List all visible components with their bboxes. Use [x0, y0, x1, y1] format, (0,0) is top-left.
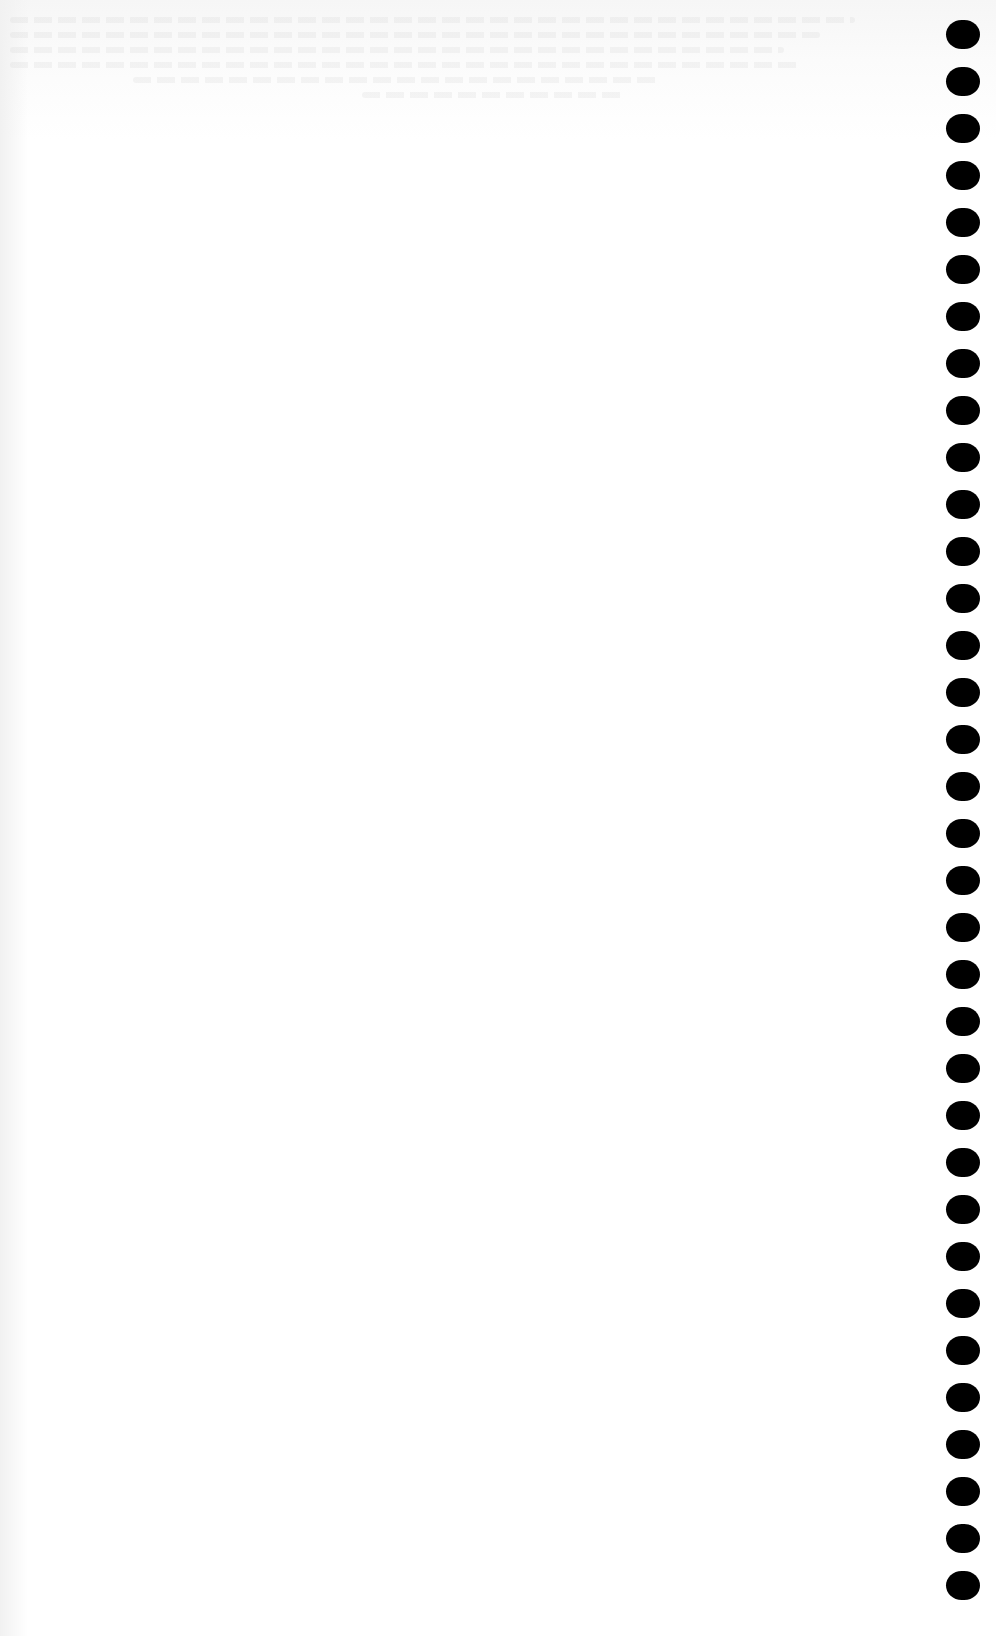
- binding-hole: [946, 1571, 980, 1600]
- binding-hole: [946, 208, 980, 237]
- binding-hole: [946, 584, 980, 613]
- binding-hole: [946, 631, 980, 660]
- binding-hole: [946, 913, 980, 942]
- binding-hole: [946, 960, 980, 989]
- binding-hole: [946, 678, 980, 707]
- binding-hole: [946, 725, 980, 754]
- binding-hole: [946, 819, 980, 848]
- bleed-through-line: [362, 92, 626, 98]
- binding-hole: [946, 67, 980, 96]
- binding-hole: [946, 1242, 980, 1271]
- bleed-through-line: [133, 77, 661, 83]
- bleed-through-line: [10, 17, 855, 23]
- binding-hole: [946, 537, 980, 566]
- binding-holes: [946, 20, 982, 1620]
- binding-hole: [946, 20, 980, 49]
- binding-hole: [946, 1007, 980, 1036]
- bleed-through-line: [10, 47, 784, 53]
- bleed-through-line: [10, 32, 820, 38]
- scanned-page: [0, 0, 996, 1636]
- binding-hole: [946, 349, 980, 378]
- binding-hole: [946, 1148, 980, 1177]
- binding-hole: [946, 1524, 980, 1553]
- binding-hole: [946, 161, 980, 190]
- binding-hole: [946, 1195, 980, 1224]
- bleed-through-text: [10, 8, 890, 128]
- binding-hole: [946, 490, 980, 519]
- binding-hole: [946, 396, 980, 425]
- binding-hole: [946, 1477, 980, 1506]
- binding-hole: [946, 1289, 980, 1318]
- binding-hole: [946, 1383, 980, 1412]
- binding-hole: [946, 302, 980, 331]
- binding-hole: [946, 1336, 980, 1365]
- bleed-through-line: [10, 62, 802, 68]
- binding-hole: [946, 1054, 980, 1083]
- binding-hole: [946, 772, 980, 801]
- binding-hole: [946, 1430, 980, 1459]
- binding-hole: [946, 255, 980, 284]
- binding-hole: [946, 443, 980, 472]
- binding-hole: [946, 866, 980, 895]
- binding-hole: [946, 1101, 980, 1130]
- binding-hole: [946, 114, 980, 143]
